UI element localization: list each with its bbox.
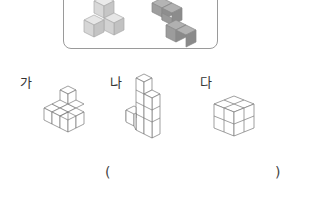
- light-gray-cube-piece: [74, 0, 134, 49]
- option-figure-na[interactable]: [122, 72, 172, 150]
- reference-box: [63, 0, 218, 49]
- option-figure-ga[interactable]: [32, 84, 92, 146]
- dark-gray-cube-piece: [144, 0, 204, 49]
- option-figure-da[interactable]: [210, 92, 260, 144]
- answer-open-paren: (: [105, 164, 110, 180]
- option-label-na: 나: [110, 72, 122, 91]
- option-label-da: 다: [200, 72, 212, 91]
- answer-blank[interactable]: [115, 164, 275, 182]
- answer-close-paren: ): [275, 164, 280, 180]
- option-label-ga: 가: [20, 72, 32, 91]
